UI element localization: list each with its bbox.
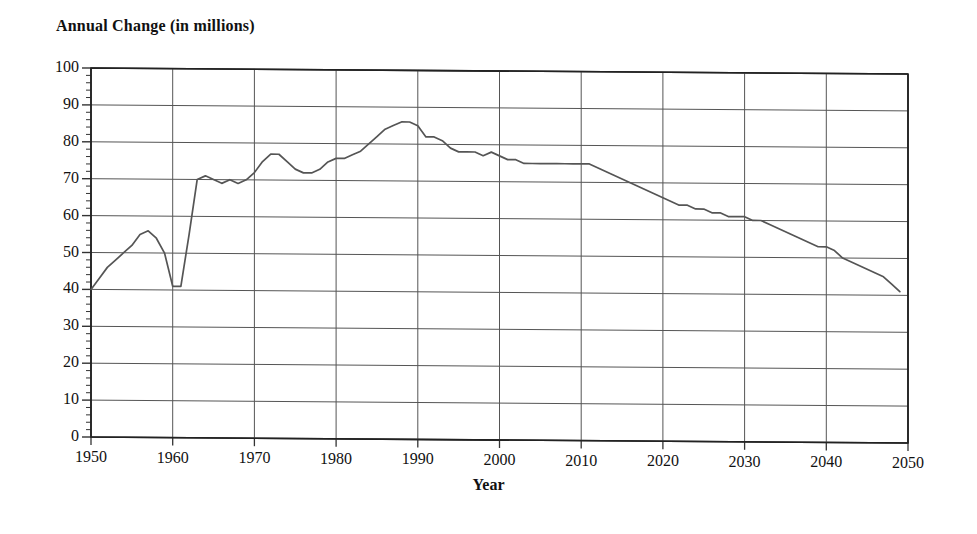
- tick-marks-layer: [82, 68, 908, 451]
- x-tick-label: 2010: [551, 452, 611, 470]
- y-tick-label: 100: [39, 58, 79, 76]
- y-tick-label: 10: [39, 390, 79, 408]
- y-tick-label: 0: [39, 427, 79, 445]
- y-tick-label: 40: [39, 279, 79, 297]
- grid-layer: [91, 68, 908, 443]
- x-tick-label: 1960: [143, 449, 203, 467]
- y-tick-label: 20: [39, 353, 79, 371]
- x-tick-label: 2030: [715, 453, 775, 471]
- x-tick-label: 1970: [224, 449, 284, 467]
- x-tick-label: 2020: [633, 452, 693, 470]
- y-tick-label: 60: [39, 206, 79, 224]
- data-series-layer: [91, 122, 900, 292]
- x-tick-label: 1980: [306, 450, 366, 468]
- x-tick-label: 2040: [796, 453, 856, 471]
- x-tick-label: 1950: [61, 448, 121, 466]
- y-tick-label: 80: [39, 132, 79, 150]
- y-tick-label: 30: [39, 316, 79, 334]
- y-tick-label: 70: [39, 169, 79, 187]
- x-tick-label: 2000: [470, 451, 530, 469]
- x-tick-label: 2050: [878, 454, 938, 472]
- y-tick-label: 90: [39, 95, 79, 113]
- y-tick-label: 50: [39, 243, 79, 261]
- chart-figure: Annual Change (in millions) Year 0102030…: [0, 0, 977, 534]
- x-tick-label: 1990: [388, 450, 448, 468]
